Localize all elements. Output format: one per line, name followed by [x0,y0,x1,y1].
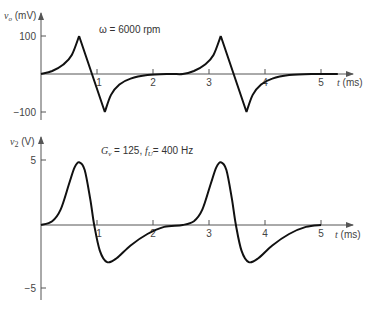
ylabel-bottom: v2 (V) [10,136,35,149]
xtick-label: 3 [206,77,212,88]
annotation-omega: ω = 6000 rpm [99,24,160,35]
xtick-label: 4 [262,228,268,239]
plot-vo: 100 −100 12345 vo (mV) ω = 6000 rpm t (m… [4,10,363,120]
xtick-label: 3 [206,228,212,239]
curve-v2 [41,162,321,262]
xtick-label: 2 [150,77,156,88]
ytick-label: −5 [25,283,37,294]
ytick-label: −100 [13,107,36,118]
plot-v2: 5 −5 12345 v2 (V) Gv = 125, fU= 400 Hz t… [10,136,361,300]
annotation-gain: Gv = 125, fU= 400 Hz [101,145,193,158]
xtick-label: 5 [318,228,324,239]
ylabel-top: vo (mV) [4,10,36,23]
chart-canvas: 100 −100 12345 vo (mV) ω = 6000 rpm t (m… [0,0,369,310]
xtick-label: 5 [318,77,324,88]
ytick-label: 5 [30,155,36,166]
xticks-bottom: 12345 [96,220,324,239]
xlabel-top: t (ms) [337,77,363,88]
xlabel-bottom: t (ms) [335,229,361,240]
ytick-label: 100 [19,31,36,42]
